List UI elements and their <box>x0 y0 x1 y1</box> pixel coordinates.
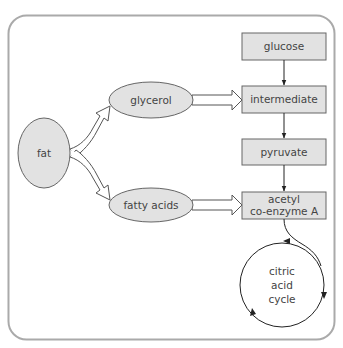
node-glucose-label: glucose <box>264 40 304 52</box>
node-fat: fat <box>18 118 70 188</box>
node-acetyl-coa: acetyl co-enzyme A <box>242 192 326 219</box>
diagram-canvas: fat glycerol fatty acids glucose interme… <box>0 0 343 348</box>
node-glycerol-label: glycerol <box>130 94 171 106</box>
node-glucose: glucose <box>242 33 326 60</box>
node-acetyl-label-2: co-enzyme A <box>250 205 319 217</box>
cycle-label-1: citric <box>269 265 295 277</box>
node-intermediate: intermediate <box>242 86 326 113</box>
node-pyruvate-label: pyruvate <box>260 146 307 158</box>
node-pyruvate: pyruvate <box>242 139 326 165</box>
cycle-label-3: cycle <box>268 293 295 305</box>
node-acetyl-label-1: acetyl <box>268 193 300 205</box>
node-intermediate-label: intermediate <box>250 93 318 105</box>
node-fatty-acids-label: fatty acids <box>123 199 178 211</box>
node-fatty-acids: fatty acids <box>109 188 193 222</box>
node-fat-label: fat <box>37 147 51 159</box>
node-glycerol: glycerol <box>109 82 193 118</box>
cycle-label-2: acid <box>271 279 293 291</box>
